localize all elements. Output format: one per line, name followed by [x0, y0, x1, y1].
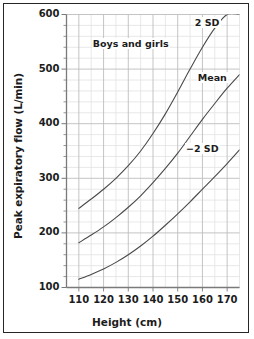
chart-subject-label: Boys and girls [92, 38, 170, 49]
y-axis-title: Peak expiratory flow (L/min) [12, 46, 24, 266]
x-tick-label-170: 170 [212, 294, 242, 305]
y-tick-label-500: 500 [26, 63, 60, 74]
y-tick-label-300: 300 [26, 172, 60, 183]
y-tick-label-600: 600 [26, 8, 60, 19]
curve-label-2-sd: 2 SD [194, 17, 221, 28]
y-tick-label-100: 100 [26, 281, 60, 292]
x-axis-title: Height (cm) [0, 316, 254, 328]
y-tick-label-400: 400 [26, 117, 60, 128]
curve-label-mean: Mean [197, 72, 228, 83]
peak-expiratory-flow-chart: Peak expiratory flow (L/min) Height (cm)… [0, 0, 254, 339]
y-tick-label-200: 200 [26, 226, 60, 237]
curve-label-2-sd: −2 SD [185, 143, 220, 154]
